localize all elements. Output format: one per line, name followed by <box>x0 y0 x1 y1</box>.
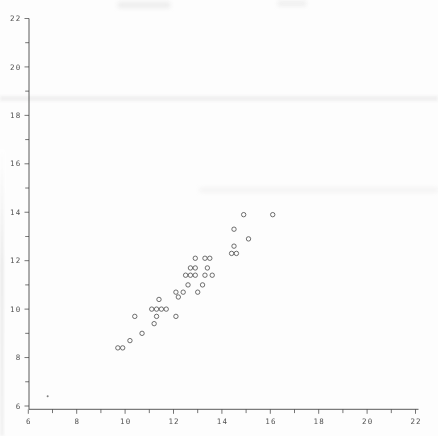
y-tick-label: 14 <box>10 208 21 217</box>
data-point <box>154 307 158 311</box>
y-tick-label: 8 <box>16 353 22 362</box>
data-point <box>188 266 192 270</box>
x-tick-label: 8 <box>74 417 80 426</box>
data-point <box>232 227 236 231</box>
x-tick-label: 12 <box>168 417 179 426</box>
x-tick-label: 22 <box>410 417 421 426</box>
x-tick-label: 14 <box>217 417 228 426</box>
data-point <box>210 273 214 277</box>
x-tick-label: 20 <box>362 417 373 426</box>
x-tick-label: 18 <box>314 417 325 426</box>
data-point <box>205 266 209 270</box>
data-point <box>120 346 124 350</box>
data-point <box>140 331 144 335</box>
scatter-plot: 68101214161820226810121416182022 <box>0 0 438 436</box>
data-point <box>164 307 168 311</box>
data-point <box>174 314 178 318</box>
data-point <box>229 251 233 255</box>
y-tick-label: 20 <box>10 63 21 72</box>
data-point <box>193 266 197 270</box>
data-point <box>232 244 236 248</box>
y-tick-label: 16 <box>10 159 21 168</box>
data-point <box>116 346 120 350</box>
data-point <box>188 273 192 277</box>
y-tick-label: 6 <box>16 402 22 411</box>
y-tick-label: 10 <box>10 305 21 314</box>
data-point <box>159 307 163 311</box>
data-point <box>241 212 245 216</box>
data-point <box>200 283 204 287</box>
y-tick-label: 12 <box>10 256 21 265</box>
data-point <box>176 295 180 299</box>
data-point <box>193 256 197 260</box>
data-point <box>193 273 197 277</box>
data-point <box>133 314 137 318</box>
data-point <box>203 256 207 260</box>
data-point <box>203 273 207 277</box>
data-point <box>128 338 132 342</box>
data-point <box>183 273 187 277</box>
y-tick-label: 18 <box>10 111 21 120</box>
data-point <box>181 290 185 294</box>
data-point <box>196 290 200 294</box>
data-point <box>246 237 250 241</box>
data-point <box>174 290 178 294</box>
stray-dot <box>47 395 49 397</box>
x-tick-label: 16 <box>265 417 276 426</box>
data-point <box>234 251 238 255</box>
data-point <box>154 314 158 318</box>
data-point <box>208 256 212 260</box>
data-point <box>157 297 161 301</box>
y-tick-label: 22 <box>10 14 21 23</box>
data-point <box>271 212 275 216</box>
data-point <box>152 321 156 325</box>
scatter-plot-figure: 68101214161820226810121416182022 <box>0 0 438 436</box>
x-tick-label: 10 <box>120 417 131 426</box>
data-point <box>186 283 190 287</box>
data-point <box>150 307 154 311</box>
x-tick-label: 6 <box>26 417 32 426</box>
